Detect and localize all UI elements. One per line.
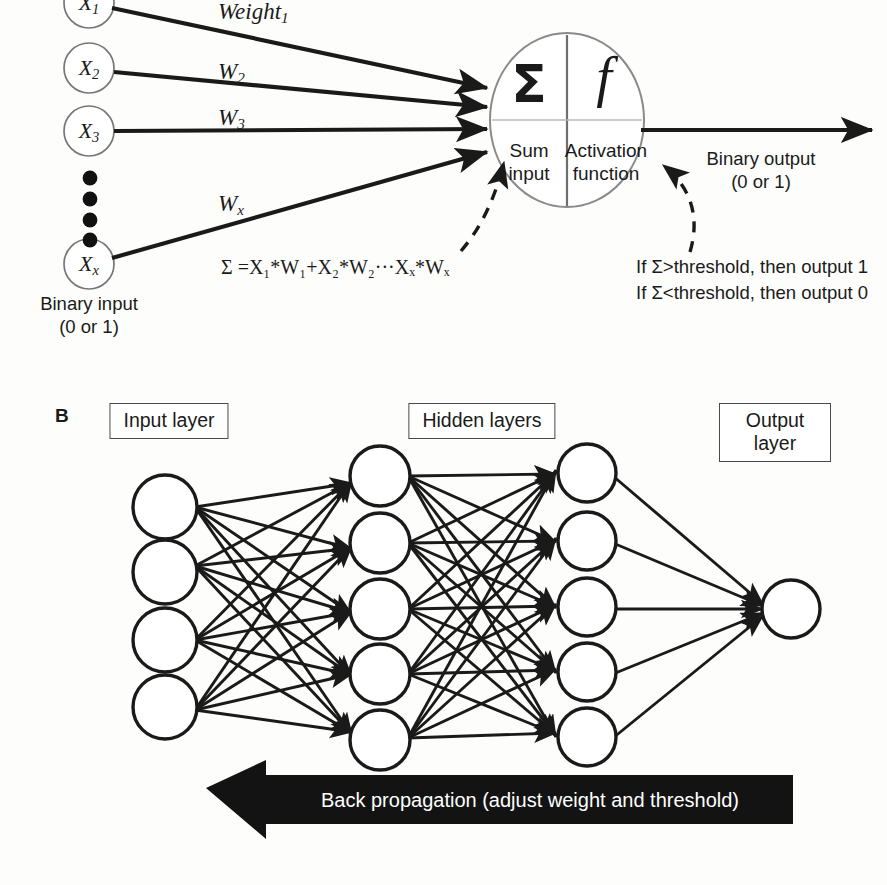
weight-label-2: W2 — [218, 58, 245, 87]
binary-output-caption-line2: (0 or 1) — [731, 171, 791, 193]
back-propagation-label: Back propagation (adjust weight and thre… — [321, 789, 739, 812]
input-node-label-x2: X2 — [79, 55, 100, 83]
sigma-symbol: Σ — [511, 54, 547, 115]
sum-input-caption-line2: input — [508, 163, 549, 185]
vertical-ellipsis-dots — [83, 171, 98, 248]
binary-input-caption-line2: (0 or 1) — [59, 316, 119, 338]
panel-b-hidden-layer-1-nodes — [350, 446, 410, 770]
neural-network-figure: X1 X2 X3 Xx Binary input (0 or 1) Weight… — [0, 0, 887, 885]
panel-a-weight-arrows — [112, 8, 487, 258]
activation-callout-dashed-curve — [663, 165, 694, 252]
threshold-rule-above: If Σ>threshold, then output 1 — [636, 256, 868, 278]
output-layer-box-label: Output layer — [746, 409, 805, 454]
input-node-sub-xx: x — [93, 262, 99, 278]
weight-label-x: Wx — [218, 190, 244, 219]
input-node-label-xx: Xx — [79, 251, 99, 279]
panel-b-hidden-layer-2-nodes — [558, 444, 616, 766]
input-node-label-x1: X1 — [79, 0, 100, 18]
hidden-layers-box: Hidden layers — [408, 403, 555, 439]
activation-caption-line1: Activation — [565, 140, 647, 162]
panel-b-input-layer-nodes — [133, 475, 197, 739]
hidden-layers-box-label: Hidden layers — [422, 409, 541, 431]
edges-hidden1-to-hidden2 — [408, 470, 556, 738]
edges-input-to-hidden1 — [195, 480, 352, 735]
edges-hidden2-to-output — [613, 476, 763, 738]
panel-b-label: B — [55, 405, 69, 427]
input-node-label-x3: X3 — [79, 118, 100, 146]
sum-callout-dashed-curve — [461, 162, 504, 251]
input-layer-box-label: Input layer — [123, 409, 214, 431]
output-layer-box: Output layer — [719, 403, 831, 462]
sum-input-caption-line1: Sum — [509, 140, 548, 162]
weight-label-1: Weight1 — [218, 0, 289, 27]
weight-label-3: W3 — [218, 104, 245, 133]
threshold-rule-below: If Σ<threshold, then output 0 — [636, 282, 868, 304]
binary-output-caption-line1: Binary output — [706, 148, 815, 170]
activation-caption-line2: function — [573, 163, 640, 185]
sum-formula: Σ =X₁*W₁+X₂*W₂···Xₓ*Wₓ — [221, 256, 450, 280]
input-layer-box: Input layer — [109, 403, 228, 439]
panel-b-output-layer-node — [762, 580, 820, 638]
input-node-sub-x1: 1 — [92, 1, 99, 17]
binary-input-caption-line1: Binary input — [40, 293, 138, 315]
activation-f-symbol: f — [596, 44, 612, 110]
input-node-sub-x2: 2 — [92, 66, 99, 82]
input-node-sub-x3: 3 — [92, 129, 99, 145]
